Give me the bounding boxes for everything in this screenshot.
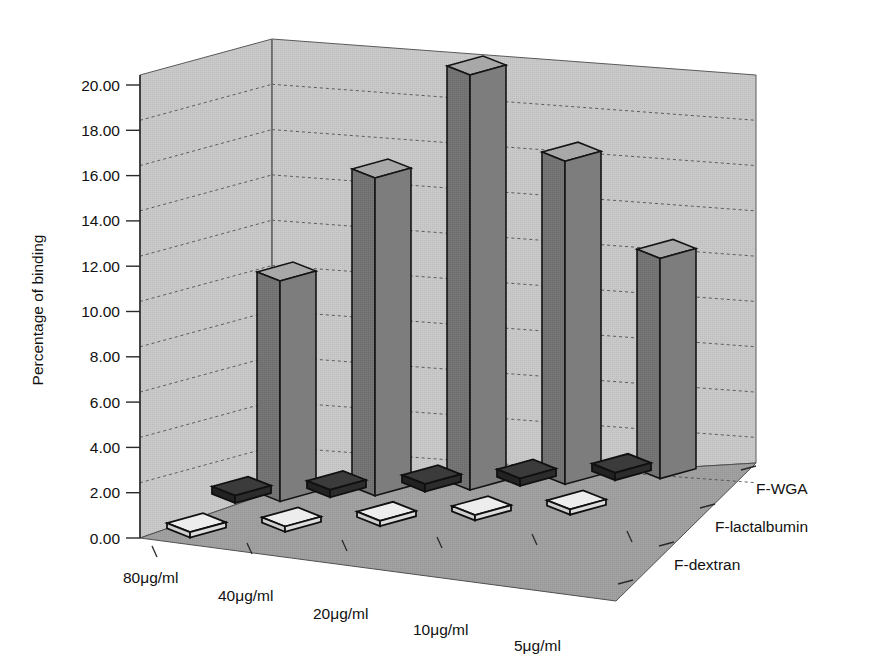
series-label-f-dextran: F-dextran — [674, 556, 740, 573]
y-tick-label: 12.00 — [81, 258, 120, 275]
y-tick-label: 10.00 — [81, 303, 120, 320]
bar-f-wga-20ugml — [447, 56, 506, 490]
y-tick-label: 0.00 — [90, 530, 121, 547]
y-tick-label: 16.00 — [81, 167, 120, 184]
x-tick-label: 10μg/ml — [413, 621, 468, 638]
y-tick-label: 4.00 — [90, 439, 121, 456]
series-label-f-lactalbumin: F-lactalbumin — [715, 518, 808, 535]
back-wall-left — [140, 39, 272, 538]
x-tick-label: 5μg/ml — [514, 637, 561, 654]
x-tick-label: 40μg/ml — [218, 587, 273, 604]
bar-f-wga-10ugml — [542, 142, 601, 484]
y-tick-label: 2.00 — [90, 484, 121, 501]
y-tick-label: 18.00 — [81, 122, 120, 139]
y-tick-label: 14.00 — [81, 212, 120, 229]
y-tick-label: 6.00 — [90, 394, 121, 411]
bar-chart-3d: 20.00 18.00 16.00 14.00 12.00 10.00 8.00… — [0, 0, 869, 668]
series-label-f-wga: F-WGA — [756, 480, 808, 497]
y-tick-label: 20.00 — [81, 77, 120, 94]
bar-f-wga-80ugml — [257, 262, 316, 501]
y-tick-labels: 20.00 18.00 16.00 14.00 12.00 10.00 8.00… — [81, 77, 120, 547]
y-axis — [126, 75, 140, 538]
chart-canvas: 20.00 18.00 16.00 14.00 12.00 10.00 8.00… — [0, 0, 869, 668]
bar-f-wga-40ugml — [352, 159, 411, 496]
y-axis-title: Percentage of binding — [29, 235, 46, 386]
x-tick-label: 20μg/ml — [313, 605, 368, 622]
bar-f-wga-5ugml — [637, 239, 696, 478]
y-tick-label: 8.00 — [90, 348, 121, 365]
plot-scene: 20.00 18.00 16.00 14.00 12.00 10.00 8.00… — [29, 39, 808, 654]
x-tick-label: 80μg/ml — [123, 569, 178, 586]
